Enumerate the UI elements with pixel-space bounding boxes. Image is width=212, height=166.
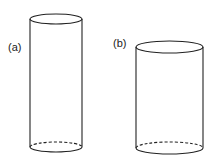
label-a: (a) (8, 41, 21, 53)
cylinder-a-top (30, 14, 82, 24)
label-b: (b) (113, 37, 126, 49)
cylinder-b (136, 41, 203, 154)
cylinder-b-top (136, 41, 203, 53)
cylinder-b-bottom-front (136, 148, 203, 154)
cylinder-a-bottom-back (30, 142, 82, 147)
cylinder-b-bottom-back (136, 142, 203, 148)
cylinder-a-bottom-front (30, 147, 82, 152)
cylinder-a (30, 14, 82, 152)
diagram-canvas: (a) (b) (0, 0, 212, 166)
